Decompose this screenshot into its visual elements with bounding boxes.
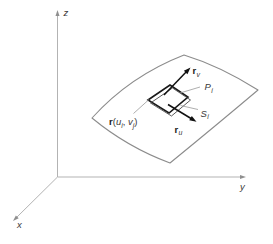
surface-patch-label: Si — [201, 108, 210, 121]
y-axis-label: y — [239, 181, 246, 192]
position-vector-label: r(ui,vj) — [109, 116, 137, 130]
figure-canvas: z y x rv ru Pi Si r(ui,vj) — [0, 0, 273, 244]
y-axis-arrowhead-icon — [240, 175, 246, 179]
p-label-leader-line — [180, 87, 200, 93]
z-axis-arrowhead-icon — [56, 10, 60, 16]
tangent-parallelogram — [148, 85, 188, 113]
rv-vector-label: rv — [193, 65, 201, 78]
ru-vector-arrowhead-icon — [189, 116, 198, 124]
parametric-surface-figure: z y x rv ru Pi Si r(ui,vj) — [0, 0, 273, 244]
position-label-leader-line — [134, 100, 150, 114]
ru-vector-label: ru — [175, 124, 183, 137]
x-axis-line — [16, 177, 58, 218]
tangent-parallelogram-label: Pi — [205, 81, 214, 94]
ru-vector-shaft — [168, 105, 194, 121]
x-axis-label: x — [16, 219, 23, 230]
z-axis-label: z — [63, 7, 69, 18]
s-label-leader-line — [181, 106, 199, 110]
